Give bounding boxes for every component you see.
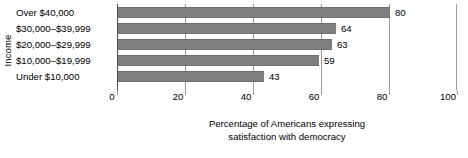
bar-value-label: 59: [324, 55, 335, 66]
category-label: Over $40,000: [16, 7, 110, 18]
y-axis-title-text: Income: [3, 34, 14, 66]
y-axis-title: Income: [0, 18, 16, 82]
x-tick-label: 40: [241, 91, 252, 102]
x-axis-title-line-1: Percentage of Americans expressing: [117, 118, 457, 131]
x-tick-label: 0: [109, 91, 114, 102]
x-axis-line: [117, 90, 458, 91]
x-tick-label: 80: [377, 91, 388, 102]
category-label: $30,000–$39,999: [16, 23, 110, 34]
bar: [118, 7, 390, 18]
x-axis-title: Percentage of Americans expressing satis…: [117, 118, 457, 143]
category-label: Under $10,000: [16, 71, 110, 82]
x-axis-title-line-2: satisfaction with democracy: [117, 131, 457, 144]
x-tick-100: [457, 90, 458, 95]
x-tick-0: [117, 90, 118, 95]
bar-chart: Income Over $40,000 $30,000–$39,999 $20,…: [0, 0, 468, 158]
category-label: $20,000–$29,999: [16, 39, 110, 50]
x-tick-60: [321, 90, 322, 95]
category-label: $10,000–$19,999: [16, 55, 110, 66]
x-tick-label: 100: [440, 91, 456, 102]
x-tick-label: 20: [173, 91, 184, 102]
x-tick-80: [389, 90, 390, 95]
category-label-group: Over $40,000 $30,000–$39,999 $20,000–$29…: [18, 5, 114, 87]
plot-area: 80 64 63 59 43: [117, 4, 457, 90]
bar: [118, 39, 332, 50]
x-tick-20: [185, 90, 186, 95]
bar-value-label: 64: [341, 23, 352, 34]
bar: [118, 71, 264, 82]
bar-value-label: 63: [337, 39, 348, 50]
x-tick-label: 60: [309, 91, 320, 102]
bar: [118, 55, 319, 66]
bar-value-label: 80: [395, 7, 406, 18]
x-tick-40: [253, 90, 254, 95]
bar-value-label: 43: [269, 71, 280, 82]
bar: [118, 23, 336, 34]
gridline-100: [456, 4, 457, 90]
